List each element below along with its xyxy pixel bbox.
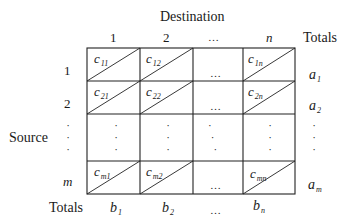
cell-c11: c11 (94, 52, 108, 68)
cell-c1n: c1n (248, 52, 263, 68)
col-total-b1: b1 (110, 201, 122, 217)
cell-c21: c21 (94, 85, 109, 101)
row-header-m: m (63, 175, 72, 188)
cell-ddots: · · · (208, 119, 217, 155)
totals-header: Totals (303, 31, 337, 45)
cell-c12: c12 (146, 52, 161, 68)
cell-ellipsis: … (210, 101, 223, 112)
cell-ellipsis: … (210, 68, 223, 79)
row-header-2: 2 (64, 97, 71, 110)
cell-vdots: ··· (166, 119, 170, 155)
col-total-ellipsis: … (210, 205, 223, 216)
cell-c2n: c2n (248, 85, 263, 101)
source-label: Source (9, 131, 48, 145)
destination-title: Destination (160, 10, 225, 24)
col-total-b2: b2 (162, 201, 174, 217)
cell-cm2: cm2 (146, 165, 163, 181)
cell-ellipsis: … (210, 180, 223, 191)
totals-row-label: Totals (49, 201, 83, 215)
row-header-vdots: ··· (66, 119, 70, 155)
col-header-2: 2 (163, 31, 170, 44)
cell-cm1: cm1 (94, 165, 111, 181)
row-total-vdots: ··· (312, 119, 316, 155)
col-header-ellipsis: … (208, 32, 221, 43)
col-header-1: 1 (110, 31, 117, 44)
cell-cmn: cmn (250, 167, 267, 183)
col-total-bn: bn (253, 199, 265, 215)
cell-c22: c22 (146, 85, 161, 101)
row-total-a2: a2 (309, 99, 321, 115)
row-header-1: 1 (64, 64, 71, 77)
cell-vdots: ··· (268, 119, 272, 155)
row-total-a1: a1 (309, 68, 321, 84)
cell-vdots: ··· (114, 119, 118, 155)
transportation-grid (0, 0, 340, 223)
col-header-n: n (266, 31, 273, 44)
row-total-am: am (308, 178, 322, 194)
